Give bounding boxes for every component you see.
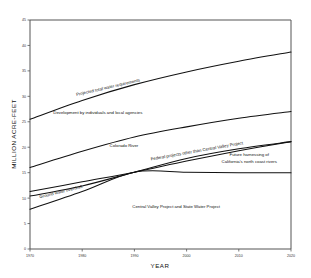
annotation-label-1: Development by individuals and local age… xyxy=(53,110,142,115)
x-axis-title: YEAR xyxy=(151,262,170,269)
y-tick-label: 45 xyxy=(22,18,26,22)
y-tick-label: 0 xyxy=(24,247,26,251)
line-chart: 051015202530354045 197019801990200020102… xyxy=(0,0,311,278)
data-curves xyxy=(30,52,291,209)
y-tick-label: 15 xyxy=(22,171,26,175)
y-axis: 051015202530354045 xyxy=(22,18,30,251)
annotation-label-4: Future harnessing of xyxy=(230,152,270,157)
series-annotations: Projected total water requirementsDevelo… xyxy=(39,77,277,209)
x-axis: 197019801990200020102020 xyxy=(26,249,295,258)
y-tick-label: 30 xyxy=(22,95,26,99)
x-tick-label: 1970 xyxy=(26,254,34,258)
annotation-label-5: California's north coast rivers xyxy=(222,159,277,164)
y-tick-label: 10 xyxy=(22,197,26,201)
x-tick-label: 2010 xyxy=(235,254,243,258)
series-curve-2 xyxy=(30,142,291,192)
x-tick-label: 2020 xyxy=(287,254,295,258)
chart-container: 051015202530354045 197019801990200020102… xyxy=(0,0,311,278)
y-tick-label: 5 xyxy=(24,222,26,226)
x-tick-label: 1990 xyxy=(130,254,138,258)
annotation-label-0: Projected total water requirements xyxy=(76,77,141,97)
y-tick-label: 35 xyxy=(22,69,26,73)
x-tick-label: 1980 xyxy=(78,254,86,258)
plot-frame xyxy=(30,20,291,249)
y-axis-title: MILLION ACRE-FEET xyxy=(10,99,17,169)
annotation-label-2: Colorado River xyxy=(110,143,139,148)
y-tick-label: 25 xyxy=(22,120,26,124)
series-curve-0 xyxy=(30,52,291,119)
y-tick-label: 20 xyxy=(22,146,26,150)
x-tick-label: 2000 xyxy=(183,254,191,258)
y-tick-label: 40 xyxy=(22,44,26,48)
annotation-label-7: Central Valley Project and State Water P… xyxy=(132,204,220,209)
